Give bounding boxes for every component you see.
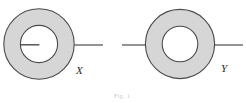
figure-canvas: X Y Fig. 1 (0, 0, 246, 103)
left-annulus-inner-circle (20, 25, 57, 62)
label-x: X (75, 64, 84, 76)
caption-remnant: Fig. 1 (114, 94, 130, 99)
right-annulus-inner-circle (162, 26, 198, 62)
annulus-diagram: X Y (0, 0, 246, 103)
label-y: Y (221, 62, 229, 74)
right-annulus-group: Y (122, 9, 243, 78)
left-annulus-group: X (4, 9, 103, 79)
